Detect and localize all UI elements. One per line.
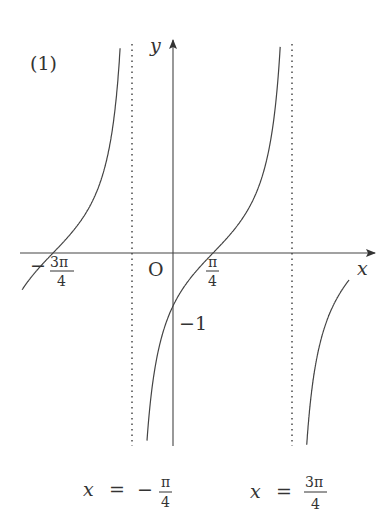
svg-text:4: 4	[208, 273, 217, 289]
panel-label: (1)	[30, 52, 57, 74]
svg-text:π: π	[161, 474, 170, 490]
curve-branch-middle	[147, 47, 280, 441]
y-intercept-label: −1	[179, 312, 207, 334]
svg-text:4: 4	[311, 496, 320, 512]
asymptote-right-label: x = 3π 4	[250, 474, 327, 512]
tick-label-pi-4: π 4	[206, 254, 219, 289]
svg-text:3π: 3π	[305, 474, 323, 490]
svg-text:4: 4	[161, 494, 170, 510]
origin-label: O	[148, 258, 164, 280]
svg-text:−: −	[137, 478, 153, 500]
svg-text:−: −	[30, 254, 46, 276]
tangent-graph-figure: (1) y x O − 3π 4 π 4 −1 x	[0, 0, 387, 519]
svg-text:x: x	[250, 480, 261, 502]
svg-text:=: =	[109, 478, 125, 500]
tick-label-neg-3pi-4: − 3π 4	[30, 254, 74, 289]
svg-text:=: =	[276, 480, 292, 502]
curve-branch-right	[307, 280, 349, 445]
asymptote-left-label: x = − π 4	[83, 474, 172, 510]
svg-text:π: π	[208, 254, 217, 270]
svg-text:x: x	[83, 478, 94, 500]
x-axis-label: x	[357, 257, 368, 279]
svg-text:3π: 3π	[50, 254, 68, 270]
svg-text:4: 4	[57, 273, 66, 289]
y-axis-label: y	[149, 34, 161, 56]
